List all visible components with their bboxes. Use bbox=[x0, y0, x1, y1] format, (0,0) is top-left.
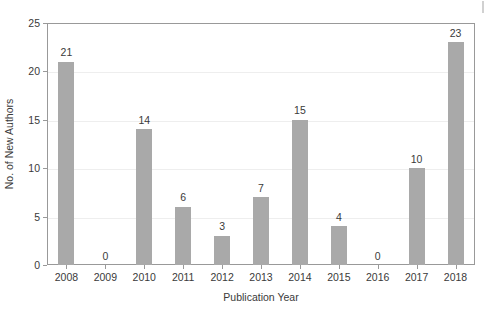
x-axis-title: Publication Year bbox=[47, 291, 475, 303]
x-tick-label: 2017 bbox=[397, 271, 436, 283]
x-tick-mark bbox=[261, 265, 262, 269]
x-tick-label: 2009 bbox=[86, 271, 125, 283]
x-tick-label: 2018 bbox=[436, 271, 475, 283]
bar-slot: 21 bbox=[47, 23, 86, 265]
bar-chart-figure: No. of New Authors 0510152025 2101463715… bbox=[0, 0, 492, 313]
y-tick-label: 25 bbox=[28, 18, 40, 29]
x-tick-mark bbox=[183, 265, 184, 269]
bar-slot: 14 bbox=[125, 23, 164, 265]
bar-slot: 0 bbox=[86, 23, 125, 265]
bar-slot: 23 bbox=[436, 23, 475, 265]
x-tick-label: 2010 bbox=[125, 271, 164, 283]
bar-value-label: 15 bbox=[294, 105, 306, 116]
bar bbox=[292, 120, 308, 265]
x-tick-mark bbox=[222, 265, 223, 269]
x-tick-mark bbox=[105, 265, 106, 269]
y-tick-label: 0 bbox=[34, 260, 40, 271]
bar-slot: 4 bbox=[319, 23, 358, 265]
bar bbox=[253, 197, 269, 265]
bar-value-label: 0 bbox=[102, 251, 108, 262]
x-tick-mark bbox=[339, 265, 340, 269]
bar bbox=[331, 226, 347, 265]
bar-value-label: 23 bbox=[450, 28, 462, 39]
bar-slot: 6 bbox=[164, 23, 203, 265]
x-tick-label: 2014 bbox=[280, 271, 319, 283]
y-tick-label: 20 bbox=[28, 66, 40, 77]
scan-artifact-mark bbox=[482, 1, 484, 13]
y-tick-label: 10 bbox=[28, 163, 40, 174]
bar-value-label: 3 bbox=[219, 221, 225, 232]
x-tick-label: 2016 bbox=[358, 271, 397, 283]
bar-value-label: 14 bbox=[138, 115, 150, 126]
x-tick-label: 2012 bbox=[203, 271, 242, 283]
bar bbox=[136, 129, 152, 265]
x-tick-label: 2013 bbox=[242, 271, 281, 283]
bar-slot: 10 bbox=[397, 23, 436, 265]
bar-value-label: 7 bbox=[258, 183, 264, 194]
x-tick-mark bbox=[378, 265, 379, 269]
x-axis-ticks: 2008200920102011201220132014201520162017… bbox=[47, 265, 475, 287]
bar-slot: 7 bbox=[242, 23, 281, 265]
bar-slot: 0 bbox=[358, 23, 397, 265]
bar-value-label: 0 bbox=[375, 251, 381, 262]
bar-value-label: 4 bbox=[336, 212, 342, 223]
y-tick-label: 5 bbox=[34, 211, 40, 222]
bar-value-label: 6 bbox=[180, 192, 186, 203]
y-axis-ticks: 0510152025 bbox=[0, 23, 47, 265]
bars-container: 2101463715401023 bbox=[47, 23, 475, 265]
bar bbox=[175, 207, 191, 265]
bar-slot: 3 bbox=[203, 23, 242, 265]
x-tick-mark bbox=[456, 265, 457, 269]
x-tick-mark bbox=[300, 265, 301, 269]
y-tick-label: 15 bbox=[28, 115, 40, 126]
bar bbox=[58, 62, 74, 265]
bar-value-label: 21 bbox=[61, 47, 73, 58]
bar-slot: 15 bbox=[280, 23, 319, 265]
bar-value-label: 10 bbox=[411, 154, 423, 165]
x-tick-label: 2008 bbox=[47, 271, 86, 283]
x-tick-label: 2015 bbox=[319, 271, 358, 283]
x-tick-mark bbox=[144, 265, 145, 269]
x-tick-mark bbox=[417, 265, 418, 269]
bar bbox=[409, 168, 425, 265]
bar bbox=[448, 42, 464, 265]
x-tick-label: 2011 bbox=[164, 271, 203, 283]
bar bbox=[214, 236, 230, 265]
x-tick-mark bbox=[66, 265, 67, 269]
